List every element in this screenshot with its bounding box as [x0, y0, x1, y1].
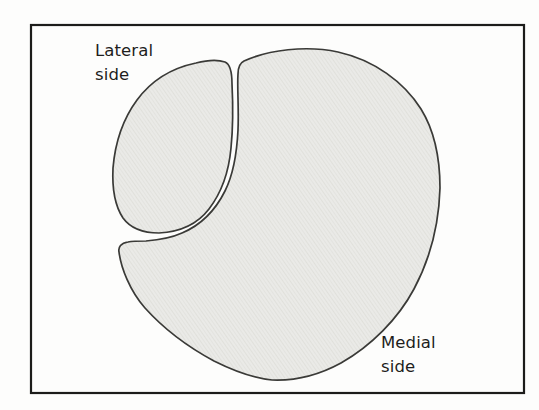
anatomy-diagram [0, 0, 539, 410]
medial-side-label: Medial side [381, 331, 436, 379]
lateral-side-label: Lateral side [95, 39, 153, 87]
figure-canvas: Lateral side Medial side [0, 0, 539, 410]
